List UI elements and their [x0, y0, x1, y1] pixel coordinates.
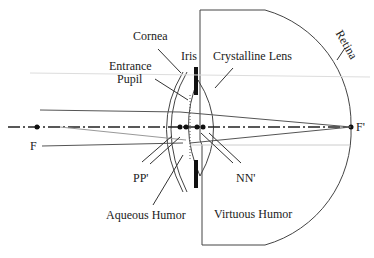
arrow-pp-2	[150, 137, 180, 164]
cornea-inner	[171, 72, 187, 192]
label-f-prime: F'	[356, 121, 365, 134]
eye-diagram	[0, 0, 374, 258]
label-vitreous-humor: Virtuous Humor	[214, 208, 292, 221]
principal-point-p	[178, 125, 183, 130]
iris-top	[194, 67, 198, 95]
label-entrance-pupil-2: Pupil	[117, 73, 142, 86]
label-pp: PP'	[133, 172, 149, 185]
arrow-cornea	[158, 49, 181, 73]
label-f: F	[30, 140, 37, 153]
ray-upper	[40, 110, 180, 112]
nodal-point-n	[195, 125, 200, 130]
ray-diag	[60, 127, 186, 140]
label-aqueous-humor: Aqueous Humor	[106, 209, 186, 222]
label-cornea: Cornea	[133, 30, 168, 43]
arrow-crystalline-lens	[215, 68, 233, 88]
ray-upper-2	[180, 112, 351, 127]
principal-point-p-prime	[184, 125, 189, 130]
label-iris: Iris	[181, 50, 197, 63]
arrow-nn-1	[201, 133, 233, 163]
label-nn: NN'	[236, 172, 256, 185]
arrow-nn-2	[209, 133, 241, 163]
arrow-aqueous-humor	[153, 155, 183, 205]
ray-lower-2	[190, 127, 351, 143]
cornea-outer	[167, 72, 184, 192]
focal-point-f	[35, 125, 40, 130]
iris-bottom	[194, 160, 198, 188]
nodal-point-n-prime	[201, 125, 206, 130]
label-crystalline-lens: Crystalline Lens	[213, 50, 292, 63]
